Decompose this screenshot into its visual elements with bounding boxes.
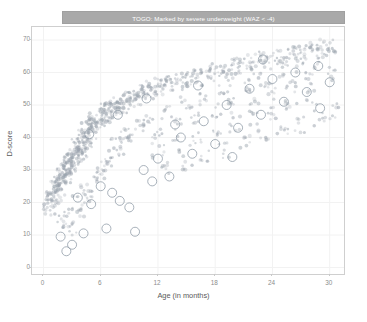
data-point: [112, 146, 116, 150]
data-point: [311, 101, 314, 104]
data-point: [281, 66, 285, 70]
data-point: [105, 160, 107, 162]
data-point: [249, 90, 251, 92]
data-point: [327, 49, 331, 53]
data-point: [64, 165, 66, 167]
data-point: [82, 157, 85, 160]
data-point: [229, 72, 233, 76]
data-point: [171, 85, 174, 88]
data-point: [293, 46, 297, 50]
data-point: [188, 144, 191, 147]
data-point: [198, 99, 201, 102]
data-point: [181, 168, 185, 172]
data-point: [190, 116, 193, 119]
data-point: [287, 49, 289, 51]
data-point: [83, 189, 86, 192]
data-point: [269, 106, 272, 109]
data-point: [142, 119, 145, 122]
data-point: [149, 122, 151, 124]
data-point: [165, 78, 169, 82]
data-point: [162, 150, 165, 153]
data-point: [71, 138, 73, 140]
data-point: [63, 193, 66, 196]
data-point: [115, 196, 124, 205]
data-point: [96, 166, 100, 170]
data-point: [259, 137, 262, 140]
data-point: [137, 119, 141, 123]
data-point: [286, 132, 289, 135]
data-point: [183, 99, 187, 103]
data-point: [274, 87, 277, 90]
x-tick-label: 12: [153, 279, 160, 286]
data-point: [70, 178, 73, 181]
data-point: [85, 183, 89, 187]
data-point: [185, 73, 188, 76]
data-point: [157, 144, 161, 148]
data-point: [180, 122, 183, 125]
data-point: [153, 133, 156, 136]
data-point: [66, 154, 69, 157]
data-point: [49, 205, 52, 208]
data-point: [104, 101, 108, 105]
data-point: [61, 188, 63, 190]
data-point: [83, 193, 86, 196]
x-tick-mark: [100, 274, 101, 276]
data-point: [190, 83, 192, 85]
data-point: [285, 85, 288, 88]
data-point: [43, 212, 47, 216]
data-point: [279, 127, 283, 131]
data-point: [249, 61, 252, 64]
data-point: [264, 138, 268, 142]
data-point: [121, 95, 123, 97]
data-point: [73, 141, 76, 144]
data-point: [79, 229, 88, 238]
data-point: [127, 128, 129, 130]
data-point: [285, 60, 288, 63]
data-point: [227, 68, 231, 72]
data-point: [156, 131, 159, 134]
data-point: [320, 48, 324, 52]
data-point: [238, 58, 242, 62]
data-point: [134, 128, 137, 131]
data-point: [247, 79, 250, 82]
data-point: [222, 157, 224, 159]
data-point: [257, 76, 261, 80]
data-point: [143, 89, 146, 92]
data-point: [267, 112, 270, 115]
data-point: [156, 93, 158, 95]
data-point: [95, 114, 98, 117]
data-point: [295, 70, 299, 74]
data-point: [191, 135, 194, 138]
data-point: [327, 73, 329, 75]
data-point: [300, 57, 303, 60]
data-point: [88, 117, 92, 121]
data-point: [305, 71, 308, 74]
data-point: [292, 53, 295, 56]
data-point: [99, 126, 101, 128]
x-tick-label: 18: [211, 279, 218, 286]
data-point: [219, 113, 222, 116]
data-point: [65, 162, 68, 165]
data-point: [102, 176, 106, 180]
data-point: [278, 59, 282, 63]
data-point: [268, 61, 270, 63]
data-point: [205, 160, 208, 163]
data-point: [127, 139, 130, 142]
data-point: [65, 223, 68, 226]
data-point: [244, 82, 247, 85]
data-point: [144, 114, 148, 118]
data-point: [267, 86, 269, 88]
data-point: [82, 144, 84, 146]
data-point: [275, 132, 279, 136]
y-tick-mark: [29, 234, 31, 235]
data-point: [56, 188, 59, 191]
data-point: [64, 182, 68, 186]
data-point: [159, 127, 163, 131]
data-point: [238, 146, 242, 150]
data-point: [269, 118, 272, 121]
data-point: [175, 73, 178, 76]
data-point: [53, 212, 57, 216]
data-point: [238, 128, 241, 131]
data-point: [308, 72, 311, 75]
data-point: [42, 202, 46, 206]
